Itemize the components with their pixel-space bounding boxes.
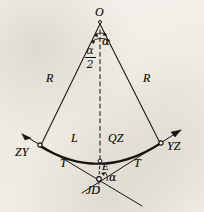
node-yz bbox=[159, 141, 163, 145]
label-curve-midpoint-qz: QZ bbox=[108, 132, 123, 144]
label-intersection-point-jd: JD bbox=[86, 184, 100, 196]
label-external-distance-e: E bbox=[102, 161, 109, 172]
label-angle-alpha-bottom: α bbox=[109, 172, 116, 183]
label-tangent-right-t: T bbox=[134, 157, 141, 169]
curve-diagram-svg bbox=[0, 0, 204, 212]
label-radius-right: R bbox=[143, 72, 150, 84]
label-center-point-o: O bbox=[95, 6, 104, 18]
label-radius-left: R bbox=[46, 72, 53, 84]
figure-canvas: O α α 2 R R L QZ T T E ZY YZ JD α bbox=[0, 0, 204, 212]
node-center-o bbox=[99, 21, 102, 24]
label-curve-length-l: L bbox=[71, 132, 78, 144]
half-alpha-denominator: 2 bbox=[83, 58, 97, 70]
angle-alpha-jd-arc bbox=[105, 172, 107, 181]
node-jd bbox=[97, 177, 102, 182]
label-start-of-curve-zy: ZY bbox=[15, 146, 28, 158]
label-half-alpha-fraction: α 2 bbox=[83, 45, 97, 70]
label-tangent-left-t: T bbox=[60, 157, 67, 169]
label-angle-alpha-top: α bbox=[102, 36, 109, 47]
node-zy bbox=[38, 143, 42, 147]
label-end-of-curve-yz: YZ bbox=[167, 140, 180, 152]
half-alpha-numerator: α bbox=[83, 45, 97, 57]
angle-alpha-jd-arrow bbox=[101, 172, 105, 176]
